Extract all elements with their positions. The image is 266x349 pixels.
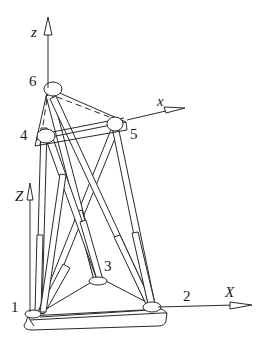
joint-label-3: 3 [104,258,112,274]
joint-1 [25,310,41,318]
base-x-axis: X [158,284,252,309]
moving-x-label: x [156,93,164,109]
joint-label-1: 1 [11,299,19,315]
joint-label-2: 2 [183,288,191,304]
moving-z-label: z [30,24,37,40]
joint-5 [107,117,123,131]
joint-label-4: 4 [20,127,28,143]
joint-label-6: 6 [29,73,37,89]
base-z-label: Z [15,188,24,204]
joint-4 [37,129,55,143]
joint-6 [44,82,62,96]
base-x-label: X [224,284,235,300]
joint-3 [89,277,107,285]
base-z-axis: Z [15,183,33,312]
joint-label-5: 5 [130,126,138,142]
hexapod-diagram: z x Z X 1 2 3 4 5 6 [0,0,266,349]
moving-x-axis: x [127,93,185,120]
